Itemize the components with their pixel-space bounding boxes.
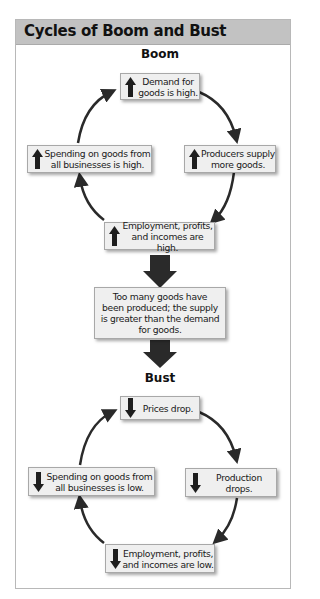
up-arrow-icon — [125, 77, 136, 97]
bust-label: Bust — [120, 371, 200, 385]
bust-node-spending: Spending on goods fromall businesses is … — [28, 467, 155, 496]
boom-node-employment: Employment, profits,and incomes are high… — [104, 222, 215, 250]
down-arrow-icon — [190, 473, 201, 493]
bust-node-employment: Employment, profits,and incomes are low. — [105, 544, 215, 573]
arrow-supply-to-employment — [214, 172, 234, 220]
boom-node-supply: Producers supplymore goods. — [184, 145, 276, 173]
arrow-employment-to-spending — [80, 178, 104, 220]
down-arrow-icon — [110, 549, 121, 569]
up-arrow-icon — [32, 149, 43, 169]
down-arrow-icon — [125, 398, 136, 418]
big-down-arrow-2 — [143, 340, 177, 368]
boom-node-demand: Demand forgoods is high. — [120, 73, 200, 100]
bust-node-prices: Prices drop. — [120, 396, 200, 420]
arrow-production-to-employment — [217, 498, 237, 540]
arrow-demand-to-supply — [199, 92, 236, 138]
up-arrow-icon — [109, 226, 120, 246]
arrow-employment-to-spending-low — [80, 500, 104, 543]
bust-node-production: Production drops. — [185, 468, 277, 497]
boom-label: Boom — [120, 47, 200, 61]
arrow-spending-to-demand — [78, 92, 111, 143]
arrow-prices-to-production — [199, 412, 236, 458]
up-arrow-icon — [189, 149, 200, 169]
arrow-spending-to-prices — [80, 412, 112, 465]
boom-node-spending: Spending on goods fromall businesses is … — [27, 145, 152, 173]
transition-node: Too many goods have been produced; the s… — [94, 287, 226, 339]
big-down-arrow-1 — [143, 255, 177, 288]
down-arrow-icon — [33, 472, 44, 492]
